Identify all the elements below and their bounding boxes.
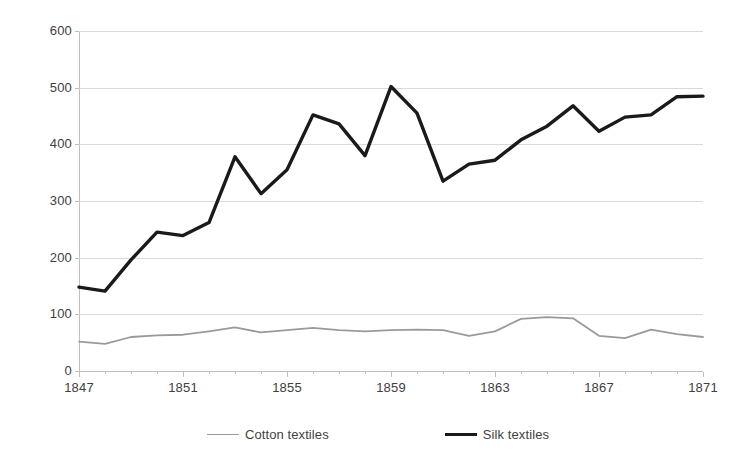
- line-chart: 0100200300400500600 18471851185518591863…: [0, 0, 756, 469]
- x-tick-label: 1847: [49, 381, 109, 395]
- y-tick-mark: [75, 258, 79, 259]
- x-tick-label: 1851: [153, 381, 213, 395]
- x-tick-mark: [703, 372, 704, 377]
- x-minor-tick-mark: [131, 372, 132, 374]
- y-tick-label: 0: [26, 364, 72, 377]
- x-tick-mark: [79, 372, 80, 377]
- legend-line-swatch: [445, 433, 477, 436]
- x-tick-label: 1863: [465, 381, 525, 395]
- y-tick-label: 300: [26, 194, 72, 207]
- plot-area: [79, 31, 703, 371]
- x-minor-tick-mark: [573, 372, 574, 374]
- x-tick-label: 1871: [673, 381, 733, 395]
- x-tick-mark: [287, 372, 288, 377]
- x-tick-mark: [183, 372, 184, 377]
- series-container: [79, 31, 703, 371]
- y-tick-mark: [75, 314, 79, 315]
- x-tick-label: 1855: [257, 381, 317, 395]
- x-minor-tick-mark: [157, 372, 158, 374]
- x-minor-tick-mark: [417, 372, 418, 374]
- y-tick-mark: [75, 31, 79, 32]
- x-minor-tick-mark: [651, 372, 652, 374]
- y-tick-label: 500: [26, 81, 72, 94]
- y-tick-label: 600: [26, 24, 72, 37]
- x-minor-tick-mark: [235, 372, 236, 374]
- legend-item-cotton-textiles[interactable]: Cotton textiles: [207, 427, 329, 442]
- legend-label: Silk textiles: [483, 427, 549, 442]
- x-minor-tick-mark: [209, 372, 210, 374]
- y-tick-mark: [75, 88, 79, 89]
- chart-legend: Cotton textilesSilk textiles: [0, 427, 756, 442]
- x-tick-mark: [391, 372, 392, 377]
- x-minor-tick-mark: [105, 372, 106, 374]
- x-minor-tick-mark: [521, 372, 522, 374]
- x-minor-tick-mark: [677, 372, 678, 374]
- x-tick-label: 1859: [361, 381, 421, 395]
- x-minor-tick-mark: [547, 372, 548, 374]
- x-minor-tick-mark: [261, 372, 262, 374]
- series-line-silk-textiles: [79, 87, 703, 292]
- x-minor-tick-mark: [469, 372, 470, 374]
- y-tick-mark: [75, 144, 79, 145]
- y-tick-label: 200: [26, 251, 72, 264]
- legend-line-swatch: [207, 434, 239, 435]
- x-minor-tick-mark: [365, 372, 366, 374]
- x-minor-tick-mark: [339, 372, 340, 374]
- x-tick-label: 1867: [569, 381, 629, 395]
- y-tick-label: 100: [26, 307, 72, 320]
- x-minor-tick-mark: [443, 372, 444, 374]
- x-minor-tick-mark: [625, 372, 626, 374]
- y-tick-mark: [75, 201, 79, 202]
- x-tick-mark: [599, 372, 600, 377]
- y-tick-mark: [75, 371, 79, 372]
- legend-label: Cotton textiles: [245, 427, 329, 442]
- x-tick-mark: [495, 372, 496, 377]
- y-tick-label: 400: [26, 137, 72, 150]
- legend-item-silk-textiles[interactable]: Silk textiles: [445, 427, 549, 442]
- series-line-cotton-textiles: [79, 317, 703, 344]
- y-axis-labels: 0100200300400500600: [16, 0, 72, 469]
- x-minor-tick-mark: [313, 372, 314, 374]
